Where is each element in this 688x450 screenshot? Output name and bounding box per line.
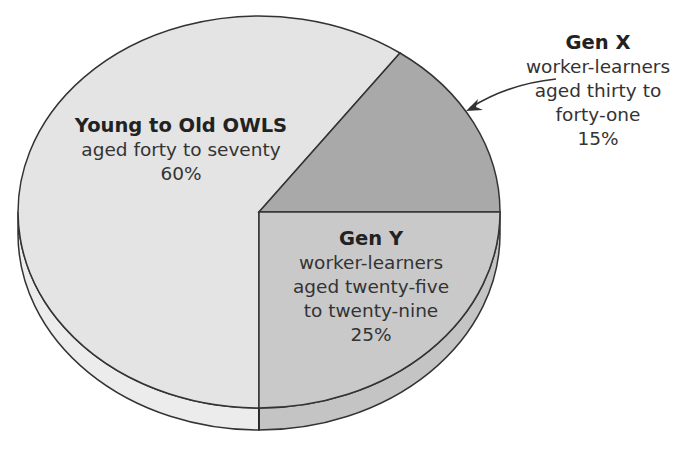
label-genx-title: Gen X [508, 31, 688, 55]
label-owls: Young to Old OWLS aged forty to seventy … [66, 114, 296, 186]
label-owls-title: Young to Old OWLS [66, 114, 296, 138]
label-geny: Gen Y worker-learners aged twenty-five t… [262, 227, 480, 347]
label-genx-line2: aged thirty to [508, 79, 688, 103]
label-owls-desc: aged forty to seventy [66, 138, 296, 162]
label-geny-line2: aged twenty-five [262, 275, 480, 299]
label-owls-pct: 60% [66, 162, 296, 186]
label-genx-pct: 15% [508, 127, 688, 151]
label-geny-pct: 25% [262, 323, 480, 347]
label-geny-title: Gen Y [262, 227, 480, 251]
label-geny-line3: to twenty-nine [262, 299, 480, 323]
label-geny-line1: worker-learners [262, 251, 480, 275]
label-genx-line1: worker-learners [508, 55, 688, 79]
label-genx: Gen X worker-learners aged thirty to for… [508, 31, 688, 151]
label-genx-line3: forty-one [508, 103, 688, 127]
arrowhead-icon [466, 99, 483, 111]
